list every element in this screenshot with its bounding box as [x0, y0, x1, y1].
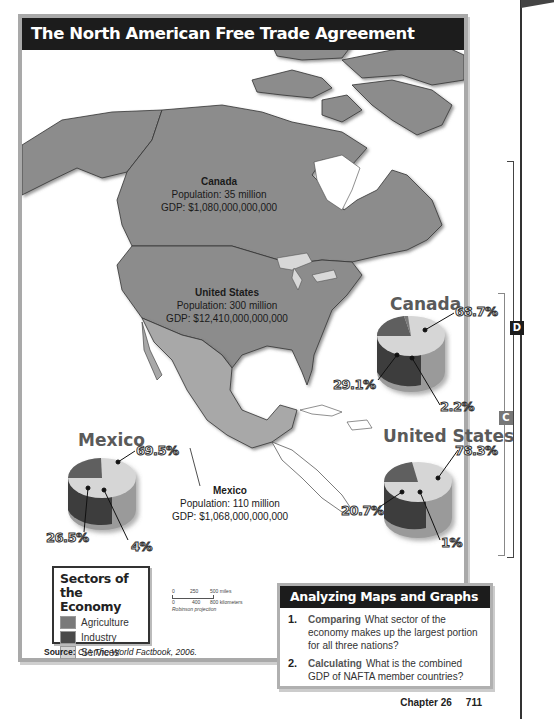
canada-industry-pct: 29.1% — [333, 377, 376, 392]
mexico-agriculture-pct: 4% — [131, 539, 152, 554]
page-number: 711 — [466, 697, 482, 708]
source-note: Source: CIA The World Factbook, 2006. — [44, 647, 197, 657]
pie-title-canada: Canada — [390, 294, 461, 314]
question-2: 2. CalculatingWhat is the combined GDP o… — [286, 657, 484, 683]
bracket-d — [507, 161, 514, 558]
canada-services-pct: 68.7% — [455, 304, 498, 319]
canada-agriculture-pct: 2.2% — [440, 399, 474, 414]
scale-bar: 0 250 500 miles 0 400 800 kilometers Rob… — [172, 588, 252, 612]
chapter-label: Chapter 26 — [400, 697, 452, 708]
us-services-pct: 78.3% — [455, 443, 498, 458]
page-footer: Chapter 26711 — [400, 697, 482, 708]
swatch-agriculture — [60, 616, 76, 629]
us-agriculture-pct: 1% — [441, 535, 462, 550]
legend-item-industry: Industry — [60, 631, 142, 644]
legend: Sectors of the Economy Agriculture Indus… — [52, 566, 150, 644]
pie-mexico — [68, 458, 136, 530]
legend-title-1: Sectors of — [60, 572, 142, 586]
us-industry-pct: 20.7% — [341, 503, 384, 518]
analyze-header: Analyzing Maps and Graphs — [280, 586, 490, 608]
marker-c: C — [499, 411, 513, 425]
question-1: 1. ComparingWhat sector of the economy m… — [286, 613, 484, 652]
analyzing-maps-box: Analyzing Maps and Graphs 1. ComparingWh… — [277, 583, 493, 689]
legend-item-agriculture: Agriculture — [60, 616, 142, 629]
pie-title-mexico: Mexico — [78, 430, 145, 450]
swatch-industry — [60, 631, 76, 644]
marker-d: D — [510, 321, 524, 335]
legend-title-2: the Economy — [60, 586, 142, 614]
pie-canada — [377, 316, 445, 392]
mexico-services-pct: 69.5% — [136, 443, 179, 458]
mexico-industry-pct: 26.5% — [46, 530, 89, 545]
